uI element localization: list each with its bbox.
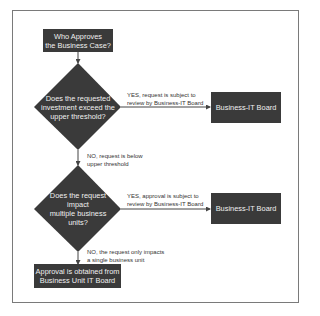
no2-line1: NO, the request only impacts (87, 249, 164, 257)
start-node: Who Approves the Business Case? (43, 29, 113, 52)
start-line2: the Business Case? (45, 41, 111, 50)
no2-label: NO, the request only impacts a single bu… (87, 249, 164, 264)
yes2-line1: YES, approval is subject to (127, 193, 203, 201)
decision2-line3: multiple business (40, 209, 116, 218)
board1-label: Business-IT Board (216, 103, 277, 112)
no1-line1: NO, request is below (87, 153, 143, 161)
business-it-board-1: Business-IT Board (211, 92, 281, 123)
business-it-board-2: Business-IT Board (211, 193, 281, 224)
no2-line2: a single business unit (87, 257, 164, 265)
decision1-line1: Does the requested (40, 94, 116, 103)
start-line1: Who Approves (45, 32, 111, 41)
yes2-label: YES, approval is subject to review by Bu… (127, 193, 203, 208)
decision1-text: Does the requested investment exceed the… (40, 94, 116, 121)
yes1-line1: YES, request is subject to (127, 92, 203, 100)
decision2-line1: Does the request (40, 191, 116, 200)
end-line2: Business Unit IT Board (36, 276, 120, 285)
decision2-text: Does the request impact multiple busines… (40, 191, 116, 227)
end-node: Approval is obtained from Business Unit … (34, 264, 121, 288)
yes1-label: YES, request is subject to review by Bus… (127, 92, 203, 107)
decision1-line3: upper threshold? (40, 112, 116, 121)
end-line1: Approval is obtained from (36, 267, 120, 276)
board2-label: Business-IT Board (216, 204, 277, 213)
decision2-line4: units? (40, 218, 116, 227)
yes2-line2: review by Business-IT Board (127, 201, 203, 209)
no1-label: NO, request is below upper threshold (87, 153, 143, 168)
decision1-line2: investment exceed the (40, 103, 116, 112)
decision2-line2: impact (40, 200, 116, 209)
no1-line2: upper threshold (87, 161, 143, 169)
yes1-line2: review by Business-IT Board (127, 100, 203, 108)
